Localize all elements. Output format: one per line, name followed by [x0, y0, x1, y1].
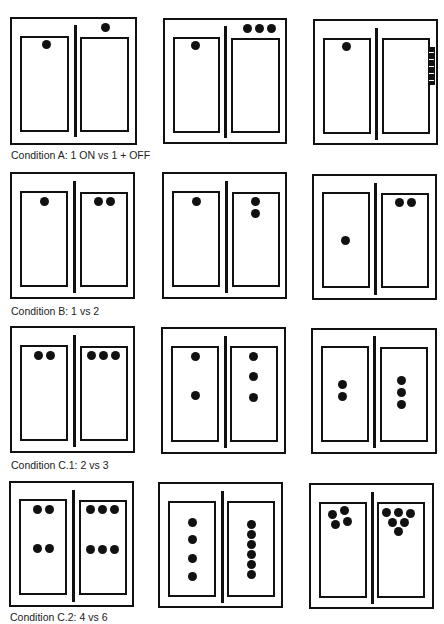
dot — [247, 540, 256, 549]
dot — [328, 510, 337, 519]
right-box — [80, 346, 128, 441]
dot — [331, 520, 340, 529]
dot — [342, 42, 351, 51]
dot — [247, 570, 256, 579]
dot — [98, 545, 107, 554]
dot — [338, 380, 347, 389]
right-box — [80, 37, 129, 132]
dot — [400, 518, 409, 527]
divider — [224, 336, 227, 448]
dot — [33, 544, 42, 553]
right-box — [80, 192, 128, 287]
dot — [247, 520, 256, 529]
dot — [397, 376, 406, 385]
divider — [373, 336, 376, 448]
left-box — [319, 502, 367, 598]
left-box — [20, 345, 68, 441]
dot — [33, 505, 42, 514]
divider — [371, 492, 374, 604]
dot — [251, 197, 260, 206]
dot — [188, 518, 197, 527]
dot — [111, 351, 120, 360]
dot — [45, 544, 54, 553]
right-box — [381, 193, 429, 288]
dot — [86, 505, 95, 514]
panel-c2-2 — [158, 482, 283, 608]
dot — [394, 508, 403, 517]
caption-c1: Condition C.1: 2 vs 3 — [11, 459, 108, 471]
dot — [188, 554, 197, 563]
dot — [394, 527, 403, 536]
off-strip — [428, 47, 435, 85]
panel-a3 — [313, 19, 438, 145]
dot — [249, 352, 258, 361]
right-box — [227, 501, 275, 597]
dot — [98, 505, 107, 514]
panel-c1-1 — [10, 326, 135, 453]
dot — [192, 197, 201, 206]
dot — [338, 392, 347, 401]
dot — [34, 351, 43, 360]
dot — [247, 530, 256, 539]
right-box — [231, 38, 280, 133]
dot-off — [243, 24, 252, 33]
dot — [249, 372, 258, 381]
right-box — [232, 192, 280, 287]
dot — [188, 572, 197, 581]
dot — [247, 550, 256, 559]
dot — [191, 352, 200, 361]
dot — [382, 508, 391, 517]
dot — [110, 505, 119, 514]
dot — [191, 41, 200, 50]
dot — [94, 197, 103, 206]
panel-c2-3 — [309, 483, 434, 609]
dot — [99, 351, 108, 360]
panel-a2 — [163, 18, 287, 144]
dot — [42, 40, 51, 49]
panel-a1 — [10, 17, 137, 145]
dot — [395, 198, 404, 207]
dot — [188, 535, 197, 544]
left-box — [173, 37, 220, 133]
dot — [341, 236, 350, 245]
dot — [340, 506, 349, 515]
divider — [375, 28, 378, 140]
panel-b1 — [10, 172, 135, 299]
dot — [247, 560, 256, 569]
panel-c1-2 — [161, 327, 286, 454]
dot — [397, 388, 406, 397]
dot — [191, 391, 200, 400]
caption-c2: Condition C.2: 4 vs 6 — [10, 611, 107, 623]
divider — [374, 183, 377, 295]
divider — [224, 26, 227, 138]
dot — [407, 198, 416, 207]
divider — [221, 491, 224, 603]
divider — [74, 25, 77, 137]
dot-off — [267, 24, 276, 33]
dot — [249, 393, 258, 402]
caption-a: Condition A: 1 ON vs 1 + OFF — [11, 149, 150, 161]
dot-off — [255, 24, 264, 33]
dot — [110, 545, 119, 554]
divider — [72, 490, 75, 602]
left-box — [323, 38, 371, 134]
divider — [73, 181, 76, 293]
dot — [343, 517, 352, 526]
panel-b2 — [162, 172, 287, 299]
panel-c2-1 — [9, 481, 134, 607]
dot-off — [101, 23, 110, 32]
dot — [40, 197, 49, 206]
dot — [87, 351, 96, 360]
dot — [251, 209, 260, 218]
panel-b3 — [312, 174, 437, 300]
left-box — [20, 36, 69, 132]
dot — [45, 505, 54, 514]
divider — [73, 335, 76, 447]
right-box — [382, 38, 430, 134]
dot — [106, 197, 115, 206]
dot — [406, 509, 415, 518]
dot — [86, 545, 95, 554]
divider — [225, 181, 228, 293]
caption-b: Condition B: 1 vs 2 — [11, 305, 99, 317]
dot — [46, 351, 55, 360]
